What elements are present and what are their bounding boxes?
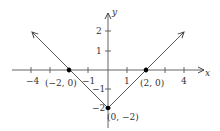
y-axis-label: y: [111, 7, 118, 17]
y-tick-label-2: 2: [96, 26, 102, 36]
point-label-0-neg2: (0, −2): [107, 112, 139, 122]
point-label-neg2-0: (−2, 0): [45, 78, 77, 88]
point-label-2-0: (2, 0): [140, 78, 164, 88]
point-0-neg2: [106, 106, 111, 111]
function-graph: −4 −1 1 4 2 1 −1 −2 (−2, 0) (2, 0) (0, −…: [0, 0, 220, 131]
x-tick-label-neg4: −4: [26, 76, 40, 86]
point-neg2-0: [67, 68, 72, 73]
y-tick-label-neg1: −1: [92, 84, 105, 94]
x-tick-label-1: 1: [124, 76, 130, 86]
x-tick-label-4: 4: [181, 76, 187, 86]
y-tick-label-neg2: −2: [92, 103, 105, 113]
x-axis-label: x: [205, 68, 210, 78]
point-2-0: [144, 68, 149, 73]
y-tick-label-1: 1: [96, 46, 102, 56]
